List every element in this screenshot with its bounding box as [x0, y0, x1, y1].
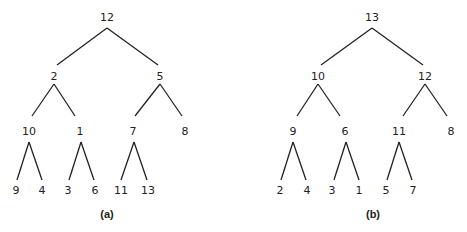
- tree-node: 8: [448, 125, 455, 138]
- tree-a-caption: (a): [100, 208, 114, 220]
- tree-node: 10: [311, 70, 325, 83]
- tree-node: 8: [182, 125, 189, 138]
- tree-node: 9: [290, 125, 297, 138]
- tree-node: 12: [100, 11, 114, 24]
- tree-node: 6: [92, 184, 99, 197]
- tree-node: 2: [277, 184, 284, 197]
- tree-node: 5: [383, 184, 390, 197]
- tree-node: 4: [304, 184, 311, 197]
- tree-a-edges: [17, 28, 182, 180]
- tree-node: 13: [141, 184, 155, 197]
- tree-b-caption: (b): [366, 208, 380, 220]
- tree-node: 12: [418, 70, 432, 83]
- tree-node: 7: [130, 125, 137, 138]
- tree-node: 1: [356, 184, 363, 197]
- tree-node: 5: [157, 70, 164, 83]
- tree-node: 9: [13, 184, 20, 197]
- tree-node: 13: [365, 11, 379, 24]
- tree-b-nodes: 13 10 12 9 6 11 8 2 4 3 1 5 7 (b): [277, 11, 455, 220]
- tree-node: 1: [77, 125, 84, 138]
- tree-b-edges: [281, 28, 447, 180]
- tree-node: 7: [410, 184, 417, 197]
- tree-node: 4: [39, 184, 46, 197]
- tree-node: 11: [392, 125, 406, 138]
- tree-a-nodes: 12 2 5 10 1 7 8 9 4 3 6 11 13 (a): [13, 11, 189, 220]
- tree-node: 2: [51, 70, 58, 83]
- tree-node: 10: [22, 125, 36, 138]
- tree-node: 3: [329, 184, 336, 197]
- tree-node: 3: [65, 184, 72, 197]
- binary-trees-diagram: 12 2 5 10 1 7 8 9 4 3 6 11 13 (a) 13 10 …: [0, 0, 467, 232]
- tree-node: 11: [114, 184, 128, 197]
- tree-node: 6: [342, 125, 349, 138]
